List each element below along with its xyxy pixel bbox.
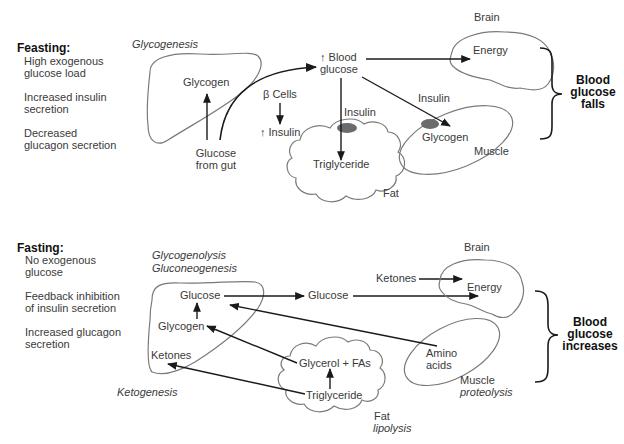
liver-glycogen-label: Glycogen: [183, 76, 229, 89]
up-insulin-label: ↑ Insulin: [260, 126, 300, 139]
fat-triglyceride-feasting: Triglyceride: [313, 158, 369, 171]
lipolysis-label: lipolysis: [373, 422, 412, 435]
fasting-condition: glucose: [25, 266, 63, 279]
insulin-receptor-muscle: [421, 119, 439, 129]
muscle-amino-label: acids: [426, 359, 452, 372]
muscle-label-feasting: Muscle: [474, 145, 509, 158]
arrow-triglyceride-to-ketones: [168, 364, 305, 394]
gluconeogenesis-label: Gluconeogenesis: [152, 262, 237, 275]
brain-energy-fasting: Energy: [467, 281, 502, 294]
brain-label-feasting: Brain: [474, 11, 500, 24]
brace-feasting: [540, 48, 562, 139]
ketones-to-brain-label: Ketones: [376, 272, 416, 285]
liver-outline-feasting: [147, 53, 261, 143]
liver-ketones-label: Ketones: [151, 349, 191, 362]
glycogenolysis-label: Glycogenolysis: [152, 249, 226, 262]
proteolysis-label: proteolysis: [460, 386, 513, 399]
blood-glucose-label: glucose: [320, 63, 358, 76]
brain-label-fasting: Brain: [464, 241, 490, 254]
insulin-label-fat: Insulin: [344, 106, 376, 119]
glucose-from-gut-label: from gut: [191, 159, 241, 172]
fat-label-feasting: Fat: [383, 187, 399, 200]
beta-cells-label: β Cells: [263, 88, 297, 101]
fasting-condition: of insulin secretion: [25, 302, 116, 315]
feasting-condition: glucose load: [24, 67, 86, 80]
muscle-glycogen-feasting: Glycogen: [422, 131, 468, 144]
fat-triglyceride-fasting: Triglyceride: [306, 389, 362, 402]
brain-outline-feasting: [450, 32, 554, 90]
ketogenesis-label: Ketogenesis: [117, 386, 178, 399]
feasting-condition: glucagon secretion: [24, 139, 116, 152]
liver-glucose-label: Glucose: [180, 289, 220, 302]
brain-energy-feasting: Energy: [473, 44, 508, 57]
arrow-amino-to-glucose: [230, 305, 437, 346]
liver-glycogen-label: Glycogen: [158, 320, 204, 333]
brace-fasting: [535, 291, 558, 382]
insulin-label-muscle: Insulin: [418, 92, 450, 105]
blood-glucose-fasting: Glucose: [308, 289, 348, 302]
glycogenesis-label: Glycogenesis: [132, 38, 198, 51]
feasting-title: Feasting:: [17, 42, 70, 55]
fat-glycerol-label: Glycerol + FAs: [299, 357, 371, 370]
outcome-feasting: falls: [566, 98, 620, 111]
fasting-condition: secretion: [25, 338, 70, 351]
outcome-fasting: increases: [558, 340, 622, 353]
insulin-receptor-fat: [337, 123, 357, 133]
feasting-condition: secretion: [24, 103, 69, 116]
